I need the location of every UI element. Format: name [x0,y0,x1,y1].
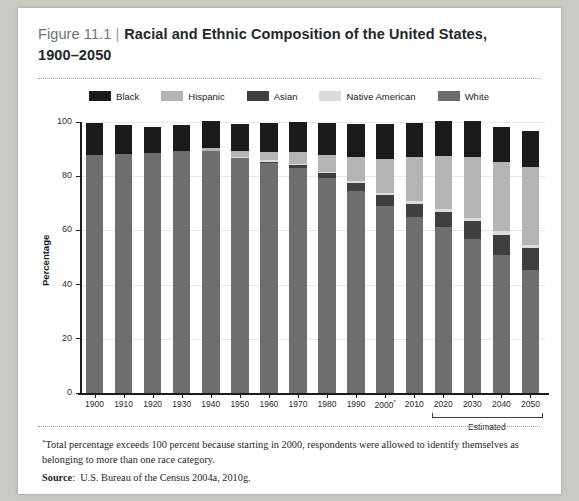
x-tick-mark [472,395,473,398]
source-separator: : [72,472,75,483]
bar-segment-white [493,255,510,393]
bar-segment-hispanic [202,148,219,151]
bar-segment-native-american [347,181,364,183]
x-tick-label: 2050 [508,399,552,409]
bar-segment-black [435,121,452,156]
legend-swatch-icon [89,91,111,101]
x-tick-label: 2030 [450,399,494,409]
legend-label: White [465,91,489,102]
x-tick-label: 1950 [218,399,262,409]
bar-segment-hispanic [522,167,539,245]
x-tick-mark [385,395,386,398]
gridline [80,122,545,123]
legend-swatch-icon [161,91,183,101]
x-tick-label: 1920 [131,399,175,409]
estimated-bracket-tick-left [432,413,433,418]
x-tick-mark [327,395,328,398]
gridline [80,285,545,286]
x-tick-mark [240,395,241,398]
bar-segment-asian [522,248,539,270]
figure-page: Figure 11.1|Racial and Ethnic Compositio… [18,8,561,494]
chart-legend: BlackHispanicAsianNative AmericanWhite [38,88,540,104]
y-tick-mark [76,338,80,339]
legend-swatch-icon [319,91,341,101]
bar-segment-asian [318,173,335,177]
footnote-text: *Total percentage exceeds 100 percent be… [42,435,538,467]
legend-label: Asian [274,91,298,102]
title-separator: | [115,26,119,42]
bar-segment-asian [347,183,364,191]
bar-segment-black [493,127,510,163]
bar-segment-native-american [435,209,452,212]
figure-title-line2: 1900–2050 [38,47,111,63]
bar-segment-white [115,154,132,393]
bar-segment-asian [493,235,510,255]
legend-item-black: Black [89,91,139,102]
bar-segment-white [144,153,161,393]
gridline [80,176,545,177]
x-tick-mark [153,395,154,398]
y-tick-label: 60 [44,224,72,234]
x-tick-label: 1980 [305,399,349,409]
bar-segment-black [347,124,364,157]
legend-swatch-icon [247,91,269,101]
bar-segment-native-american [376,193,393,196]
bar-segment-native-american [289,164,306,165]
x-tick-label: 2000* [363,399,407,410]
source-line: Source: U.S. Bureau of the Census 2004a,… [42,472,538,483]
bar-segment-native-american [406,201,423,204]
bar-segment-hispanic [318,155,335,172]
bar-segment-black [86,123,103,154]
bar-segment-black [464,121,481,157]
bar-segment-asian [406,204,423,217]
legend-item-hispanic: Hispanic [161,91,224,102]
bar-segment-white [347,191,364,393]
x-tick-mark [95,395,96,398]
bar-segment-white [231,158,248,393]
x-tick-mark [530,395,531,398]
legend-label: Native American [346,91,415,102]
estimated-bracket-tick-right [542,413,543,418]
figure-title-line1: Racial and Ethnic Composition of the Uni… [124,26,487,42]
bar-segment-black [522,131,539,167]
x-tick-label: 2020 [421,399,465,409]
bar-segment-asian [376,195,393,205]
x-tick-label: 1900 [73,399,117,409]
bar-segment-native-american [464,218,481,221]
y-tick-label: 40 [44,279,72,289]
bar-segment-white [289,168,306,393]
y-tick-label: 100 [44,116,72,126]
title-divider [38,78,540,80]
bar-segment-white [86,155,103,393]
x-tick-label: 1970 [276,399,320,409]
x-tick-label: 1930 [160,399,204,409]
bar-segment-white [260,163,277,393]
gridline [80,230,545,231]
bar-segment-hispanic [435,156,452,209]
bar-segment-black [231,124,248,151]
x-tick-year: 2000 [375,400,394,410]
bar-segment-native-american [231,157,248,158]
x-tick-mark [356,395,357,398]
legend-swatch-icon [438,91,460,101]
x-tick-mark [414,395,415,398]
bar-segment-hispanic [289,152,306,164]
x-axis-line [78,393,549,395]
footnote-body: Total percentage exceeds 100 percent bec… [42,439,519,465]
x-tick-mark [269,395,270,398]
footnote-divider [38,426,540,428]
y-tick-mark [76,122,80,123]
bar-segment-white [173,151,190,393]
bar-segment-hispanic [376,159,393,193]
bar-segment-asian [464,221,481,239]
bar-segment-white [435,227,452,393]
bar-segment-asian [435,212,452,227]
x-tick-label: 2040 [479,399,523,409]
bar-segment-hispanic [464,157,481,218]
bar-segment-black [202,121,219,148]
x-tick-mark [182,395,183,398]
y-tick-mark [76,393,80,394]
source-text: U.S. Bureau of the Census 2004a, 2010g. [80,472,250,483]
x-tick-label: 1940 [189,399,233,409]
y-tick-label: 0 [44,387,72,397]
